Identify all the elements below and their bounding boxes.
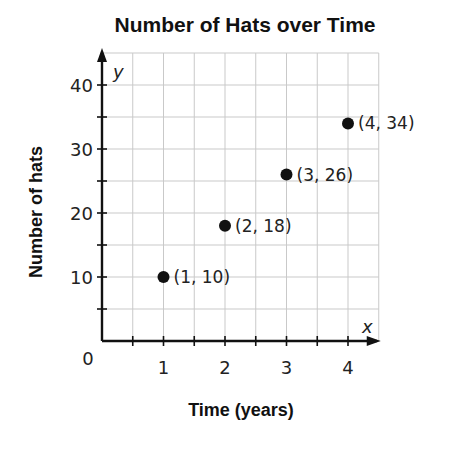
x-tick-label: 2	[219, 357, 230, 378]
origin-label: 0	[82, 348, 93, 369]
data-point-label: (4, 34)	[358, 113, 415, 133]
data-point-label: (2, 18)	[235, 216, 292, 236]
chart-title: Number of Hats over Time	[114, 13, 375, 36]
x-tick-label: 3	[281, 357, 292, 378]
axes	[97, 48, 381, 346]
y-tick-label: 20	[70, 203, 93, 224]
x-tick-label: 4	[342, 357, 353, 378]
y-axis-title: Number of hats	[26, 146, 46, 278]
data-point-label: (3, 26)	[297, 165, 354, 185]
y-tick-label: 30	[70, 139, 93, 160]
y-axis-arrow-icon	[97, 48, 107, 62]
grid-lines	[102, 53, 379, 341]
data-point-label: (1, 10)	[174, 267, 231, 287]
scatter-chart: Number of Hats over Time 1234 10203040 (…	[0, 0, 450, 449]
data-point-marker	[219, 220, 231, 232]
y-axis-variable: y	[112, 61, 124, 82]
data-point-marker	[281, 169, 293, 181]
y-tick-label: 10	[70, 267, 93, 288]
y-tick-label: 40	[70, 75, 93, 96]
x-tick-label: 1	[158, 357, 169, 378]
data-point-marker	[158, 271, 170, 283]
x-axis-ticks: 1234	[133, 336, 354, 378]
x-axis-variable: x	[361, 316, 373, 337]
x-axis-title: Time (years)	[188, 400, 294, 420]
data-point-marker	[342, 117, 354, 129]
